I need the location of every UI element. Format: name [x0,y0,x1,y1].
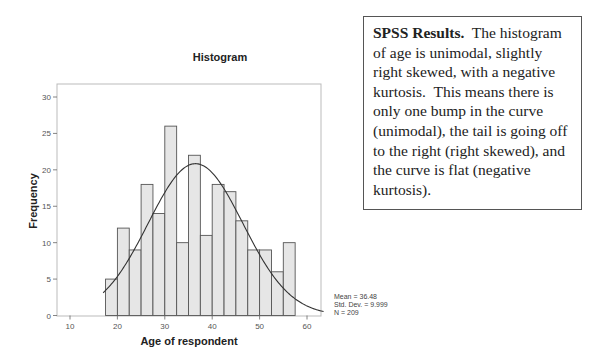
x-tick-label: 30 [160,322,169,331]
histogram-bar [165,126,177,315]
y-tick-label: 30 [42,93,51,102]
histogram-bar [283,243,295,316]
histogram-bar [224,192,236,316]
histogram-bar [129,250,141,316]
chart-legend: Mean = 36.48 Std. Dev. = 9.999 N = 209 [334,293,388,316]
x-tick-label: 50 [255,322,264,331]
histogram-bar [189,155,201,315]
y-axis-label: Frequency [27,172,39,229]
note-heading: SPSS Results. [373,24,464,41]
results-note-box: SPSS Results. The histogram of age is un… [363,16,582,210]
histogram-bar [212,184,224,315]
x-tick-label: 10 [66,322,75,331]
y-tick-label: 0 [47,312,52,321]
y-tick-label: 15 [42,202,51,211]
histogram-bars [106,126,296,315]
chart-title: Histogram [193,51,248,63]
y-tick-label: 5 [47,275,52,284]
y-tick-label: 10 [42,239,51,248]
histogram-bar [153,214,165,316]
histogram-bar [260,250,272,316]
x-tick-label: 40 [208,322,217,331]
y-axis: 051015202530 [42,93,57,321]
x-axis: 102030405060 [66,316,312,331]
x-tick-label: 20 [113,322,122,331]
legend-mean: Mean = 36.48 [334,293,377,300]
x-axis-label: Age of respondent [140,335,238,347]
y-tick-label: 20 [42,166,51,175]
histogram-bar [271,272,283,316]
histogram-bar [248,250,260,316]
legend-std-dev: Std. Dev. = 9.999 [334,301,388,308]
histogram-bar [141,184,153,315]
histogram-bar [236,221,248,316]
y-tick-label: 25 [42,129,51,138]
legend-n: N = 209 [334,309,359,316]
histogram-bar [200,235,212,315]
histogram-bar [117,228,129,315]
histogram-bar [177,243,189,316]
note-body: The histogram of age is unimodal, slight… [373,24,571,198]
x-tick-label: 60 [303,322,312,331]
